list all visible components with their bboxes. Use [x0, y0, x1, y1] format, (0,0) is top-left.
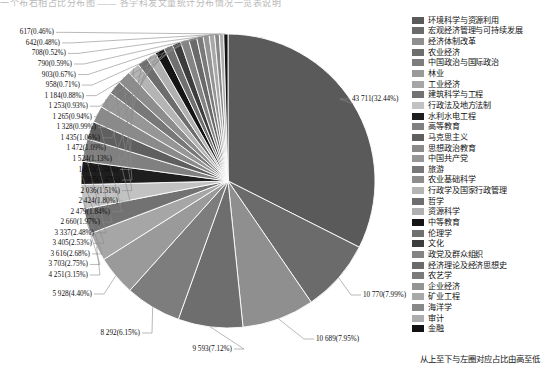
legend-color-swatch: [412, 113, 424, 120]
legend-color-swatch: [412, 283, 424, 290]
legend-note: 从上至下与左圈对应占比由高至低: [404, 352, 555, 364]
legend-item-label: 文化: [428, 239, 444, 248]
legend-item[interactable]: 矿业工程: [412, 292, 555, 303]
legend-color-swatch: [412, 251, 424, 258]
slice-value-label: 1 524(1.13%): [72, 154, 112, 163]
legend-item[interactable]: 马克思主义: [412, 132, 555, 143]
legend-item-label: 农业基础科学: [428, 175, 475, 184]
slice-value-label: 4 251(3.15%): [48, 271, 88, 280]
slice-value-label: 2 424(1.80%): [78, 197, 118, 206]
legend-color-swatch: [412, 134, 424, 141]
legend-item[interactable]: 水利水电工程: [412, 111, 555, 122]
legend-color-swatch: [412, 49, 424, 56]
legend-item[interactable]: 宏观经济管理与可持续发展: [412, 26, 555, 37]
legend-item-label: 建筑科学与工程: [428, 90, 483, 99]
legend-item-label: 水利水电工程: [428, 112, 475, 121]
legend-item[interactable]: 哲学: [412, 196, 555, 207]
legend-item[interactable]: 审计: [412, 313, 555, 324]
legend-color-swatch: [412, 187, 424, 194]
legend-color-swatch: [412, 325, 424, 332]
legend-color-swatch: [412, 27, 424, 34]
legend-item[interactable]: 金融: [412, 324, 555, 335]
legend-item-label: 经济理论及经济思想史: [428, 261, 507, 270]
slice-value-label: 3 616(2.68%): [50, 249, 90, 258]
legend-color-swatch: [412, 230, 424, 237]
legend-color-swatch: [412, 315, 424, 322]
legend-item[interactable]: 经济体制改革: [412, 36, 555, 47]
legend-item[interactable]: 文化: [412, 238, 555, 249]
legend-color-swatch: [412, 208, 424, 215]
legend-item-label: 环境科学与资源利用: [428, 16, 499, 25]
legend-color-swatch: [412, 262, 424, 269]
legend-color-swatch: [412, 198, 424, 205]
legend-color-swatch: [412, 219, 424, 226]
legend-item[interactable]: 行政法及地方法制: [412, 100, 555, 111]
legend-item[interactable]: 环境科学与资源利用: [412, 15, 555, 26]
legend-item-label: 伦理学: [428, 229, 452, 238]
slice-value-label: 2 660(1.97%): [60, 218, 100, 227]
legend-item[interactable]: 思想政治教育: [412, 143, 555, 154]
leader-line: [94, 276, 116, 294]
pie-chart-figure: 一个布右相占比分布图 —— 各学科发文量统计分布情况一览表说明 43 711(3…: [0, 0, 555, 368]
legend-item-label: 哲学: [428, 197, 444, 206]
legend-color-swatch: [412, 91, 424, 98]
legend-item-label: 中国政治与国际政治: [428, 58, 499, 67]
slice-value-label: 1 472(1.09%): [66, 144, 106, 153]
legend-item-label: 资源科学: [428, 207, 460, 216]
legend-color-swatch: [412, 70, 424, 77]
slice-value-label: 3 405(2.53%): [52, 239, 92, 248]
leader-line: [339, 278, 361, 295]
slice-value-label: 8 292(6.15%): [100, 329, 140, 338]
slice-value-label: 1 803(1.34%): [78, 165, 118, 174]
legend-item[interactable]: 建筑科学与工程: [412, 89, 555, 100]
legend-item-label: 行政学及国家行政管理: [428, 186, 507, 195]
legend-item[interactable]: 工业经济: [412, 79, 555, 90]
legend-item[interactable]: 旅游: [412, 164, 555, 175]
legend-color-swatch: [412, 166, 424, 173]
leader-line: [56, 32, 226, 34]
slice-value-label: 10 689(7.95%): [316, 335, 359, 344]
legend-item[interactable]: 高等教育: [412, 121, 555, 132]
legend-color-swatch: [412, 145, 424, 152]
legend-item[interactable]: 中国共产党: [412, 153, 555, 164]
legend-item[interactable]: 农业经济: [412, 47, 555, 58]
legend-item[interactable]: 企业经济: [412, 281, 555, 292]
legend-item[interactable]: 林业: [412, 68, 555, 79]
legend-color-swatch: [412, 59, 424, 66]
legend-item-label: 中等教育: [428, 218, 460, 227]
slice-value-label: 9 593(7.12%): [192, 345, 232, 354]
slice-value-label: 2 036(1.51%): [80, 186, 120, 195]
legend-item-label: 经济体制改革: [428, 37, 475, 46]
legend-color-swatch: [412, 240, 424, 247]
slice-value-label: 790(0.59%): [38, 60, 72, 69]
legend-item-label: 中国共产党: [428, 154, 468, 163]
legend: 环境科学与资源利用宏观经济管理与可持续发展经济体制改革农业经济中国政治与国际政治…: [412, 15, 555, 334]
pie-plot-area: 43 711(32.44%)10 770(7.99%)10 689(7.95%)…: [0, 0, 400, 368]
legend-color-swatch: [412, 304, 424, 311]
slice-value-label: 1 265(0.94%): [52, 112, 92, 121]
slice-value-label: 903(0.67%): [42, 70, 76, 79]
legend-item[interactable]: 农业基础科学: [412, 175, 555, 186]
legend-item[interactable]: 经济理论及经济思想史: [412, 260, 555, 271]
legend-item[interactable]: 政党及群众组织: [412, 249, 555, 260]
legend-item[interactable]: 海洋学: [412, 302, 555, 313]
legend-item[interactable]: 农艺学: [412, 270, 555, 281]
legend-item-label: 农业经济: [428, 48, 460, 57]
slice-value-label: 3 337(2.48%): [54, 228, 94, 237]
legend-item-label: 行政法及地方法制: [428, 101, 491, 110]
slice-value-label: 958(0.71%): [46, 81, 80, 90]
slice-value-label: 1 253(0.93%): [48, 102, 88, 111]
legend-item-label: 矿业工程: [428, 292, 460, 301]
legend-item-label: 林业: [428, 69, 444, 78]
legend-item[interactable]: 资源科学: [412, 207, 555, 218]
legend-item-label: 思想政治教育: [428, 144, 475, 153]
legend-item-label: 高等教育: [428, 122, 460, 131]
legend-item[interactable]: 中国政治与国际政治: [412, 58, 555, 69]
legend-item[interactable]: 行政学及国家行政管理: [412, 185, 555, 196]
legend-item[interactable]: 中等教育: [412, 217, 555, 228]
slice-value-label: 1 435(1.06%): [60, 133, 100, 142]
legend-item-label: 审计: [428, 314, 444, 323]
legend-color-swatch: [412, 155, 424, 162]
leader-line: [142, 307, 153, 333]
legend-item[interactable]: 伦理学: [412, 228, 555, 239]
